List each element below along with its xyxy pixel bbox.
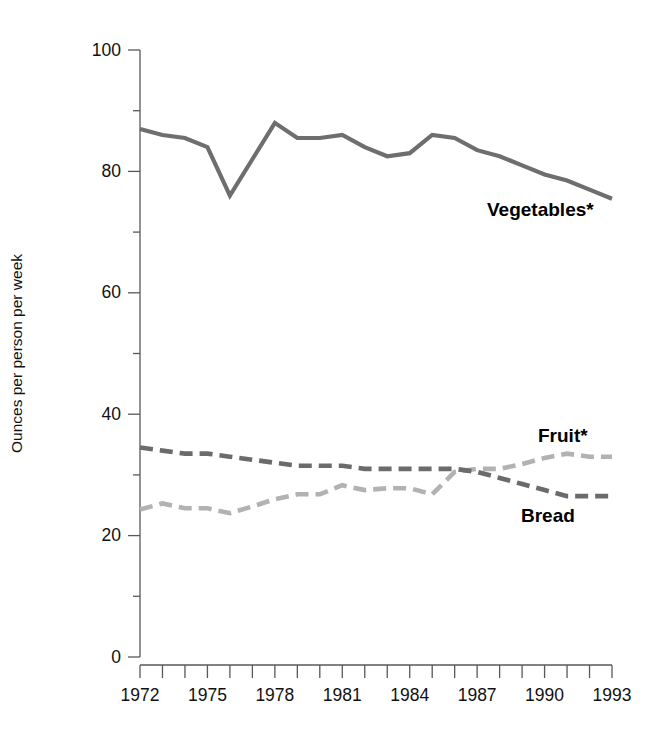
x-axis-tick-label: 1975 [188, 685, 227, 705]
x-axis-tick-label: 1978 [255, 685, 294, 705]
x-axis-tick-label: 1987 [458, 685, 497, 705]
x-axis-tick-label: 1981 [323, 685, 362, 705]
x-axis-tick-label: 1990 [525, 685, 564, 705]
y-axis-tick-label: 80 [102, 161, 122, 181]
y-axis-tick-label: 20 [102, 525, 122, 545]
series-label-vegetables: Vegetables* [487, 199, 594, 220]
series-label-bread: Bread [521, 505, 575, 526]
series-label-fruit: Fruit* [538, 425, 588, 446]
chart-figure: 020406080100Ounces per person per week19… [0, 0, 657, 736]
x-axis-tick-label: 1972 [121, 685, 160, 705]
y-axis-tick-label: 0 [111, 647, 121, 667]
x-axis-tick-label: 1984 [390, 685, 429, 705]
y-axis-tick-label: 40 [102, 404, 122, 424]
series-line-vegetables [140, 123, 612, 199]
y-axis-title: Ounces per person per week [8, 254, 25, 453]
x-axis-tick-label: 1993 [593, 685, 632, 705]
line-chart: 020406080100Ounces per person per week19… [0, 0, 657, 736]
y-axis-tick-label: 100 [92, 40, 121, 60]
y-axis-tick-label: 60 [102, 282, 122, 302]
